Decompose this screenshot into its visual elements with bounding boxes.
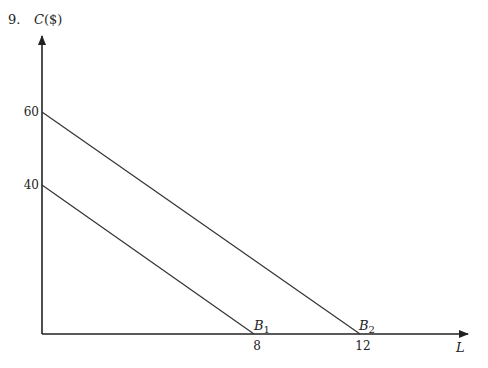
- y-tick-40: 40: [24, 178, 39, 192]
- x-tick-12: 12: [355, 339, 370, 353]
- budget-line-b1: [42, 185, 254, 334]
- x-axis-label: L: [455, 340, 465, 355]
- x-tick-8: 8: [253, 339, 261, 353]
- problem-number: 9.: [8, 12, 20, 27]
- y-axis-label: C($): [34, 12, 62, 27]
- y-tick-60: 60: [24, 105, 39, 119]
- label-b2: B2: [358, 318, 375, 335]
- label-b1: B1: [253, 318, 270, 335]
- budget-line-b2: [42, 112, 360, 334]
- y-axis-unit: ($): [44, 12, 62, 27]
- budget-constraint-chart: 9. C($) L 60 40 8 12 B1 B2: [0, 0, 488, 368]
- y-axis-var: C: [34, 12, 44, 27]
